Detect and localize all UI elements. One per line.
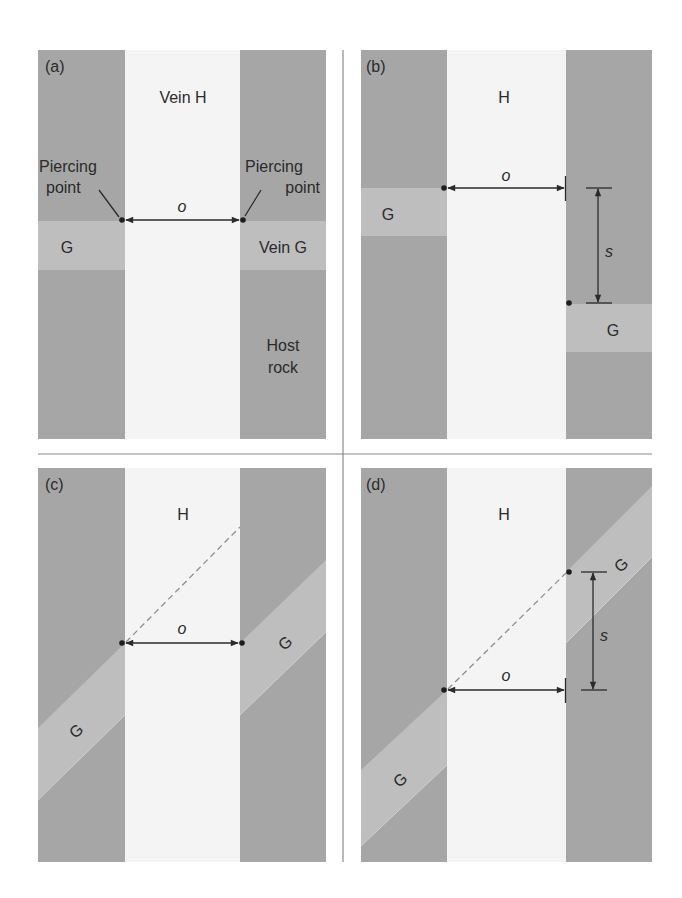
panel-d: (d) H o s G G (361, 468, 652, 862)
piercing-point-right-line1: Piercing (245, 158, 303, 175)
piercing-point-right (240, 217, 246, 223)
offset-label: o (502, 667, 511, 684)
panel-a: (a) Vein H Piercing point Piercing point… (38, 50, 326, 439)
vein-h (125, 50, 240, 439)
piercing-point-left (441, 687, 447, 693)
panel-label: (c) (45, 476, 64, 493)
panel-label: (a) (45, 58, 65, 75)
vein-offset-figure: (a) Vein H Piercing point Piercing point… (0, 0, 682, 898)
separation-label: s (600, 627, 608, 644)
panel-c: (c) H o G G (38, 468, 326, 862)
offset-label: o (178, 620, 187, 637)
vein-h-label: H (498, 89, 510, 106)
vein-g-left (38, 221, 125, 270)
vein-g-left-label: G (382, 206, 394, 223)
vein-g-left (361, 188, 447, 236)
vein-g-left-label: G (61, 239, 73, 256)
panel-b: (b) H o s G G (361, 50, 652, 439)
vein-h (447, 50, 566, 439)
host-rock-left (361, 50, 447, 439)
piercing-point-left-line1: Piercing (39, 158, 97, 175)
piercing-point-left (119, 217, 125, 223)
piercing-point-left (441, 185, 447, 191)
panel-label: (d) (366, 476, 386, 493)
vein-h (447, 468, 566, 862)
vein-h-label: H (498, 506, 510, 523)
host-rock-label-line1: Host (267, 337, 300, 354)
offset-label: o (178, 198, 187, 215)
separation-label: s (605, 243, 613, 260)
piercing-point-left (119, 640, 125, 646)
vein-h-label: H (177, 506, 189, 523)
piercing-point-left-line2: point (46, 179, 81, 196)
piercing-point-right (239, 640, 245, 646)
piercing-point-right-line2: point (285, 179, 320, 196)
vein-h (125, 468, 240, 862)
vein-g-right-label: G (607, 322, 619, 339)
piercing-point-right (566, 300, 572, 306)
host-rock-label-line2: rock (268, 359, 299, 376)
vein-g-right-label: Vein G (259, 239, 307, 256)
panel-label: (b) (366, 58, 386, 75)
piercing-point-right (566, 569, 572, 575)
vein-h-label: Vein H (159, 89, 206, 106)
offset-label: o (502, 167, 511, 184)
